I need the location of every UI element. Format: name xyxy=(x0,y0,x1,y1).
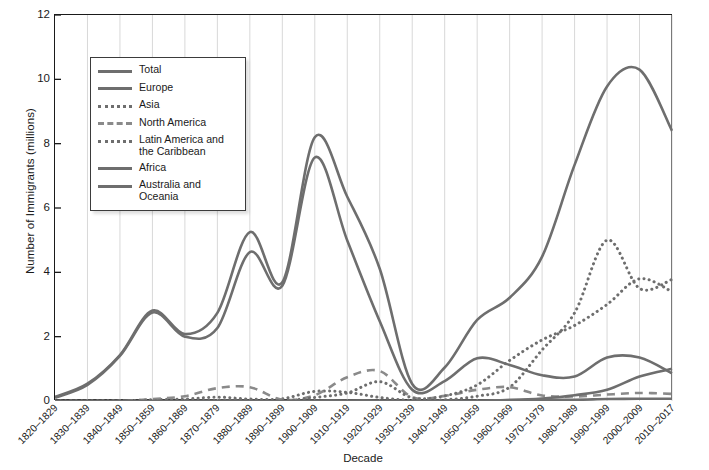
y-tick-label: 8 xyxy=(26,137,50,149)
x-axis-tick-labels: 1820–18291830–18391840–18491850–18591860… xyxy=(0,400,709,460)
x-axis-title: Decade xyxy=(54,452,672,464)
legend-swatch-dashed-icon xyxy=(98,117,132,130)
legend-swatch-solid-icon xyxy=(98,179,132,192)
legend-item: Europe xyxy=(98,82,238,95)
y-tick-label: 4 xyxy=(26,265,50,277)
legend-swatch-solid-icon xyxy=(98,64,132,77)
legend-item: Latin America and the Caribbean xyxy=(98,134,238,157)
legend-item-label: Australia and Oceania xyxy=(139,179,238,202)
legend-item: Africa xyxy=(98,162,238,175)
legend-swatch-solid-icon xyxy=(98,162,132,175)
legend-swatch-dotted-icon xyxy=(98,134,132,147)
legend-item: Total xyxy=(98,64,238,77)
legend-item: Australia and Oceania xyxy=(98,179,238,202)
legend-swatch-solid-icon xyxy=(98,82,132,95)
legend-item-label: Africa xyxy=(139,162,166,174)
legend-item: Asia xyxy=(98,99,238,112)
legend-item-label: Asia xyxy=(139,99,160,111)
y-tick-label: 12 xyxy=(26,8,50,20)
legend-item-label: Latin America and the Caribbean xyxy=(139,134,238,157)
y-tick-label: 2 xyxy=(26,330,50,342)
x-tick-label: 1820–1829 xyxy=(3,402,60,459)
legend-item-label: Europe xyxy=(139,82,173,94)
y-tick-label: 10 xyxy=(26,72,50,84)
y-tick-label: 6 xyxy=(26,201,50,213)
legend-swatch-dotted-icon xyxy=(98,99,132,112)
legend-item-label: North America xyxy=(139,117,206,129)
legend-item-label: Total xyxy=(139,64,161,76)
legend-item: North America xyxy=(98,117,238,130)
series-line xyxy=(55,279,672,401)
chart-figure: Number of Immigrants (millions) 12108642… xyxy=(0,0,709,470)
series-line xyxy=(55,240,672,401)
chart-legend: TotalEuropeAsiaNorth AmericaLatin Americ… xyxy=(90,57,246,211)
